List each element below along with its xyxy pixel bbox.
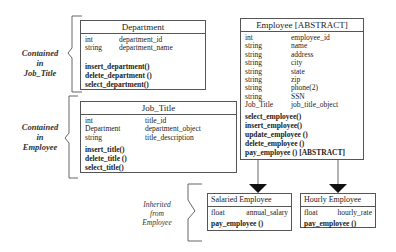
attribute-list: intemployee_id stringname stringaddress … bbox=[241, 32, 363, 110]
method-row: select_department() bbox=[85, 80, 201, 89]
bracket-job-title bbox=[65, 96, 78, 178]
annotation-inherited-from-employee: Inherited from Employee bbox=[132, 200, 182, 227]
class-title: Salaried Employee bbox=[208, 194, 291, 207]
class-title: Department bbox=[81, 21, 205, 34]
attribute-list: floathourly_rate bbox=[301, 207, 375, 217]
method-row: delete_employee () bbox=[245, 139, 359, 148]
attribute-row: stringaddress bbox=[245, 51, 359, 59]
arrowhead-hourly-icon bbox=[329, 184, 347, 193]
class-hourly-employee: Hourly Employee floathourly_rate pay_emp… bbox=[300, 193, 376, 228]
method-row: delete_department () bbox=[85, 71, 201, 80]
attribute-list: intdepartment_id stringdepartment_name bbox=[81, 34, 205, 59]
arrowhead-salaried-icon bbox=[249, 184, 267, 193]
attribute-row: stringdepartment_name bbox=[85, 44, 201, 52]
method-row: pay_employee () bbox=[304, 219, 372, 228]
method-list: pay_employee () bbox=[208, 217, 291, 230]
attribute-list: inttitle_id Departmentdepartment_object … bbox=[81, 115, 236, 142]
class-job-title: Job_Title inttitle_id Departmentdepartme… bbox=[80, 101, 237, 173]
attribute-row: floathourly_rate bbox=[304, 209, 372, 217]
method-list: insert_title() delete_title () select_ti… bbox=[81, 142, 236, 174]
method-row: insert_title() bbox=[85, 145, 232, 154]
class-salaried-employee: Salaried Employee floatannual_salary pay… bbox=[207, 193, 292, 231]
attribute-row: Job_Titlejob_title_object bbox=[245, 101, 359, 109]
method-list: pay_employee () bbox=[301, 217, 375, 230]
attribute-row: floatannual_salary bbox=[211, 209, 288, 217]
method-row: select_title() bbox=[85, 163, 232, 172]
method-row: select_employee() bbox=[245, 112, 359, 121]
attribute-list: floatannual_salary bbox=[208, 207, 291, 217]
bracket-subclasses bbox=[188, 184, 202, 241]
method-row: update_employee () bbox=[245, 130, 359, 139]
method-row: insert_employee() bbox=[245, 121, 359, 130]
class-department: Department intdepartment_id stringdepart… bbox=[80, 20, 206, 90]
method-row: delete_title () bbox=[85, 154, 232, 163]
class-employee: Employee [ABSTRACT] intemployee_id strin… bbox=[240, 18, 364, 160]
method-row: pay_employee () bbox=[211, 219, 288, 228]
attribute-row: stringtitle_description bbox=[85, 134, 232, 142]
class-title: Employee [ABSTRACT] bbox=[241, 19, 363, 32]
method-row: pay_employee () [ABSTRACT] bbox=[245, 148, 359, 157]
attribute-row: stringstate bbox=[245, 68, 359, 76]
annotation-contained-in-employee: Contained in Employee bbox=[14, 122, 66, 152]
class-title: Hourly Employee bbox=[301, 194, 375, 207]
method-list: select_employee() insert_employee() upda… bbox=[241, 110, 363, 159]
method-list: insert_department() delete_department ()… bbox=[81, 59, 205, 91]
class-title: Job_Title bbox=[81, 102, 236, 115]
method-row: insert_department() bbox=[85, 62, 201, 71]
annotation-contained-in-job-title: Contained in Job_Title bbox=[14, 48, 66, 78]
